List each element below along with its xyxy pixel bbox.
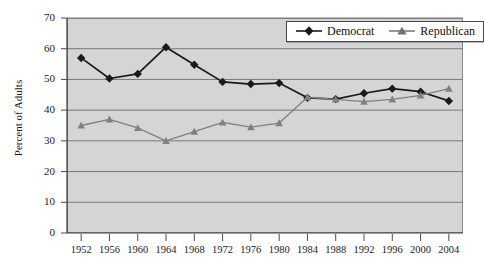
democrat-marker-icon xyxy=(295,25,323,37)
y-tick-label: 70 xyxy=(21,12,55,23)
chart-legend: Democrat Republican xyxy=(286,21,484,42)
y-tick-label: 40 xyxy=(21,104,55,115)
legend-label-republican: Republican xyxy=(420,24,475,38)
legend-item-democrat: Democrat xyxy=(295,24,374,38)
y-axis-title: Percent of Adults xyxy=(12,53,24,183)
y-tick-label: 0 xyxy=(21,227,55,238)
y-tick-label: 60 xyxy=(21,43,55,54)
legend-label-democrat: Democrat xyxy=(327,24,374,38)
republican-marker-icon xyxy=(388,25,416,37)
y-tick-label: 10 xyxy=(21,196,55,207)
y-tick-label: 30 xyxy=(21,135,55,146)
y-tick-label: 50 xyxy=(21,73,55,84)
x-tick-label: 2004 xyxy=(432,244,466,255)
plot-area xyxy=(67,18,463,233)
legend-item-republican: Republican xyxy=(388,24,475,38)
y-tick-label: 20 xyxy=(21,166,55,177)
